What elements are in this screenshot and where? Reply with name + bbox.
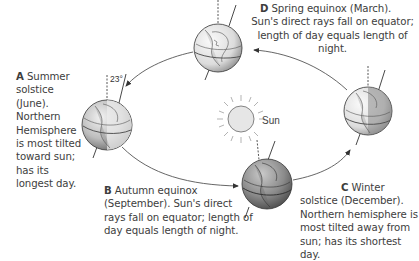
- caption-b-autumn-equinox: B Autumn equinox (September). Sun's dire…: [104, 184, 254, 238]
- caption-letter: A: [16, 71, 24, 82]
- sun-label: Sun: [262, 115, 280, 126]
- caption-first-line: Summer: [27, 71, 70, 82]
- globe-a-icon: [82, 74, 132, 158]
- caption-a-summer-solstice: A Summer solstice (June). Northern Hemis…: [16, 70, 86, 191]
- globe-d-icon: [194, 0, 242, 80]
- caption-first-line: Autumn equinox: [115, 185, 198, 196]
- caption-letter: C: [341, 182, 348, 193]
- caption-c-winter-solstice: C Winter solstice (December). Northern h…: [300, 181, 419, 261]
- caption-first-line: Spring equinox (March).: [272, 3, 392, 14]
- caption-letter: B: [104, 185, 112, 196]
- caption-letter: D: [260, 3, 268, 14]
- caption-body: solstice (June). Northern Hemisphere is …: [16, 84, 81, 189]
- tilt-angle-label: 23°: [110, 74, 123, 84]
- arrow-c-to-d: [254, 50, 347, 90]
- caption-body: Sun's direct rays fall on equator; lengt…: [251, 16, 414, 54]
- caption-body: solstice (December). Northern hemisphere…: [300, 195, 418, 260]
- caption-heading: C Winter: [300, 181, 419, 194]
- arrow-b-to-c: [293, 150, 350, 180]
- arrow-a-to-b: [122, 147, 238, 186]
- caption-first-line: Winter: [352, 182, 385, 193]
- caption-heading: D Spring equinox (March).: [245, 2, 419, 15]
- caption-d-spring-equinox: D Spring equinox (March). Sun's direct r…: [245, 2, 419, 56]
- globe-c-icon: [344, 66, 392, 145]
- sun-icon: [217, 95, 265, 143]
- caption-body: (September). Sun's direct rays fall on e…: [104, 198, 253, 236]
- arrow-d-to-a: [126, 52, 193, 86]
